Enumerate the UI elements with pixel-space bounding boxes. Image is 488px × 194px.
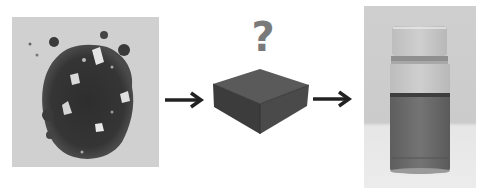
arrow-right-icon-1 <box>165 91 205 109</box>
vial-image <box>364 6 476 188</box>
question-mark-icon: ? <box>248 14 278 60</box>
powder-image <box>12 17 159 167</box>
vial-photo <box>364 6 476 188</box>
arrow-right-icon-2 <box>313 90 353 108</box>
powder-photo <box>12 17 159 167</box>
black-box-icon <box>210 66 312 138</box>
